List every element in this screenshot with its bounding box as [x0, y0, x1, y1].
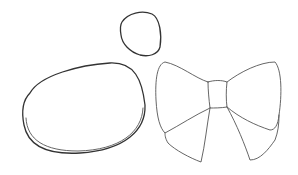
sketch-drawing	[0, 0, 298, 175]
bow-shape	[156, 62, 281, 162]
sketch-canvas	[0, 0, 298, 175]
small-rounded-shape	[120, 12, 160, 55]
large-oval-shape	[23, 63, 145, 153]
